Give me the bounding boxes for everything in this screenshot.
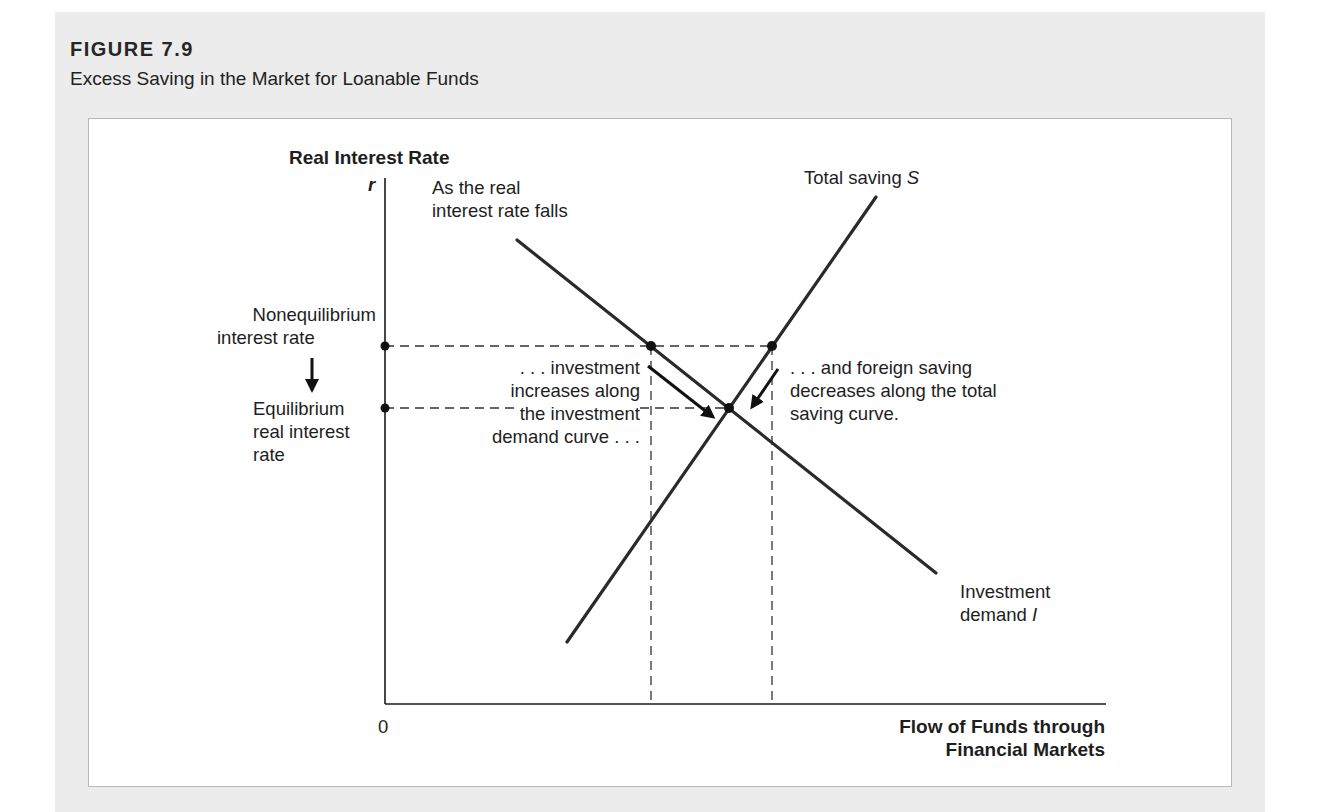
equilibrium-label-line3: rate <box>253 444 285 466</box>
total-saving-symbol: S <box>907 167 919 188</box>
investment-demand-text: demand <box>960 604 1032 625</box>
nonequilibrium-rate-dot <box>381 342 390 351</box>
equilibrium-label-line2: real interest <box>253 421 350 443</box>
x-axis-title-line2: Financial Markets <box>946 739 1105 761</box>
x-axis-title-line1: Flow of Funds through <box>899 716 1105 738</box>
total-saving-label: Total saving S <box>804 167 919 189</box>
rate-falls-annotation-line2: interest rate falls <box>432 200 568 222</box>
investment-movement-arrow-icon <box>648 366 713 417</box>
equilibrium-rate-dot <box>381 404 390 413</box>
nonequilibrium-label-line2: interest rate <box>217 327 315 349</box>
y-symbol-text: r <box>368 174 375 195</box>
nonequilibrium-label-line1: Nonequilibrium <box>253 304 376 326</box>
investment-annotation-line3: the investment <box>516 403 640 425</box>
investment-nonequilibrium-point <box>646 341 656 351</box>
rate-falls-annotation-line1: As the real <box>432 177 520 199</box>
origin-label: 0 <box>378 716 388 738</box>
investment-annotation-line4: demand curve . . . <box>488 426 640 448</box>
investment-demand-label-line2: demand I <box>960 604 1037 626</box>
saving-annotation-line2: decreases along the total <box>790 380 997 402</box>
saving-nonequilibrium-point <box>767 341 777 351</box>
saving-annotation-line1: . . . and foreign saving <box>790 357 972 379</box>
investment-annotation-line2: increases along <box>506 380 640 402</box>
total-saving-text: Total saving <box>804 167 907 188</box>
y-axis-symbol: r <box>368 174 375 196</box>
saving-movement-arrow-icon <box>752 369 778 407</box>
equilibrium-label-line1: Equilibrium <box>253 398 345 420</box>
investment-symbol: I <box>1032 604 1037 625</box>
investment-annotation-line1: . . . investment <box>516 357 640 379</box>
equilibrium-point <box>724 403 734 413</box>
y-axis-title: Real Interest Rate <box>289 147 450 169</box>
investment-demand-label-line1: Investment <box>960 581 1051 603</box>
saving-annotation-line3: saving curve. <box>790 403 899 425</box>
